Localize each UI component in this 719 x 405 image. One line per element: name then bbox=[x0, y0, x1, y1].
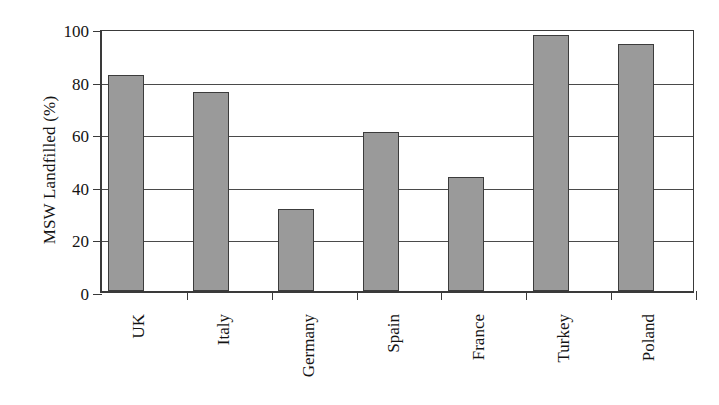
y-tick-label: 60 bbox=[72, 128, 89, 145]
bar bbox=[533, 35, 569, 291]
y-tick-label: 80 bbox=[72, 75, 89, 92]
bar bbox=[618, 44, 654, 291]
y-tick-mark bbox=[93, 189, 102, 190]
plot-area: 020406080100 bbox=[100, 30, 694, 293]
y-tick-label: 40 bbox=[72, 180, 89, 197]
x-tick-label: Italy bbox=[215, 314, 232, 345]
x-tick-mark bbox=[272, 291, 273, 300]
bar bbox=[363, 132, 399, 291]
x-tick-label: Poland bbox=[640, 314, 657, 361]
bar bbox=[108, 75, 144, 291]
x-tick-label: France bbox=[470, 314, 487, 360]
x-tick-label: Germany bbox=[300, 314, 317, 377]
y-axis-title: MSW Landfilled (%) bbox=[40, 30, 60, 310]
y-tick-mark bbox=[93, 31, 102, 32]
y-tick-label: 100 bbox=[64, 23, 90, 40]
x-tick-mark bbox=[696, 291, 697, 300]
gridline bbox=[102, 84, 693, 85]
y-tick-mark bbox=[93, 84, 102, 85]
y-tick-label: 0 bbox=[81, 286, 90, 303]
bar-chart: MSW Landfilled (%) 020406080100 UKItalyG… bbox=[0, 0, 719, 405]
x-tick-label: Turkey bbox=[555, 314, 572, 363]
x-tick-mark bbox=[611, 291, 612, 300]
bar bbox=[448, 177, 484, 291]
y-tick-mark bbox=[93, 294, 102, 295]
x-tick-mark bbox=[526, 291, 527, 300]
x-tick-mark bbox=[441, 291, 442, 300]
bar bbox=[278, 209, 314, 291]
bar bbox=[193, 92, 229, 291]
x-tick-label: UK bbox=[130, 314, 147, 339]
x-tick-mark bbox=[357, 291, 358, 300]
y-tick-mark bbox=[93, 136, 102, 137]
x-tick-label: Spain bbox=[385, 314, 402, 353]
y-tick-mark bbox=[93, 241, 102, 242]
y-tick-label: 20 bbox=[72, 233, 89, 250]
x-tick-mark bbox=[187, 291, 188, 300]
